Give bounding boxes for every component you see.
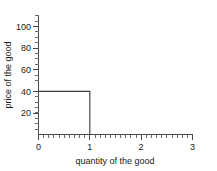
y-tick-label: 40 [21,87,31,97]
x-tick-label: 3 [190,142,195,152]
y-tick-label: 60 [21,65,31,75]
y-tick-label: 80 [21,43,31,53]
y-axis-title: price of the good [3,41,13,108]
step-function-chart: 20 40 60 80 100 [0,0,217,171]
x-tick-label: 0 [36,142,41,152]
x-tick-label: 2 [139,142,144,152]
chart-figure: 20 40 60 80 100 [0,0,217,171]
y-tick-label: 100 [16,22,31,32]
chart-background [0,0,217,171]
x-tick-label: 1 [87,142,92,152]
y-tick-label: 20 [21,108,31,118]
x-axis-title: quantity of the good [75,156,154,166]
